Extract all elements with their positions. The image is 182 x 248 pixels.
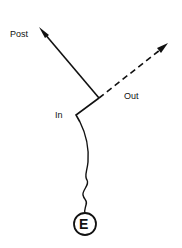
in-label: In	[55, 111, 63, 120]
in-line	[76, 98, 99, 122]
out-label: Out	[124, 92, 139, 101]
post-line	[44, 33, 99, 98]
diagram-canvas: Post Out In E	[0, 0, 182, 248]
node-e-label: E	[79, 217, 88, 231]
wavy-path	[80, 122, 88, 213]
post-label: Post	[10, 30, 28, 39]
